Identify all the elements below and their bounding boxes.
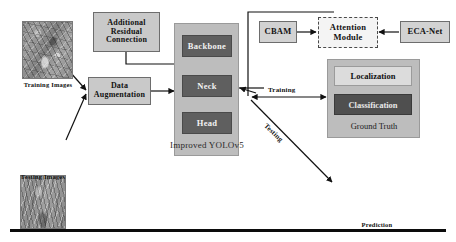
prediction-caption: Prediction [336,221,418,228]
neck-label: Neck [197,81,217,91]
neck-block[interactable]: Neck [182,75,232,97]
data-augmentation-box[interactable]: Data Augmentation [88,77,151,105]
training-image-caption: Training Images [6,81,90,88]
edge-attention-into-neck [240,88,256,93]
eca-net-box[interactable]: ECA-Net [400,21,450,43]
training-image [22,21,73,79]
additional-residual-connection-box[interactable]: Additional Residual Connection [93,12,160,52]
attention-module-box[interactable]: Attention Module [318,17,378,48]
cbam-box[interactable]: CBAM [259,21,297,43]
localization-box[interactable]: Localization [334,66,412,86]
localization-label: Localization [351,71,396,81]
diagram-canvas: Training Images Testing Images Additiona… [0,0,456,242]
footer-divider [10,229,446,232]
classification-box[interactable]: Classification [334,94,412,115]
residual-line-3: Connection [106,36,147,45]
augmentation-line-2: Augmentation [94,91,145,100]
edge-testing-image-to-augmentation [66,94,86,140]
testing-image-caption: Testing Images [2,173,84,180]
cbam-label: CBAM [265,27,292,36]
ground-truth-caption: Ground Truth [330,121,418,131]
attention-line-2: Module [333,33,362,42]
classification-label: Classification [348,100,397,110]
head-label: Head [197,118,218,128]
eca-net-label: ECA-Net [408,27,443,36]
backbone-label: Backbone [188,41,226,51]
training-edge-label: Training [268,86,296,94]
testing-image [20,175,66,229]
improved-yolov5-caption: Improved YOLOv5 [170,140,244,150]
edge-testing-to-prediction [251,100,332,182]
backbone-block[interactable]: Backbone [182,35,232,57]
testing-edge-label: Testing [262,122,284,144]
head-block[interactable]: Head [182,112,232,134]
